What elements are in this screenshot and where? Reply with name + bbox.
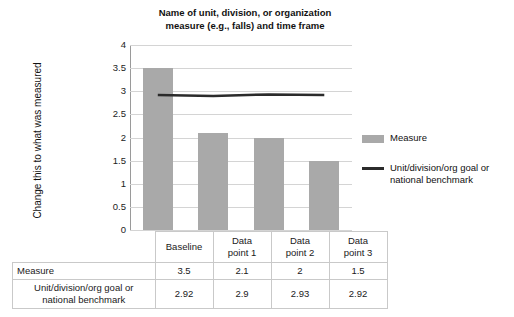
chart-legend: Measure Unit/division/org goal or nation… xyxy=(362,132,512,204)
y-axis-tick-label: 2 xyxy=(121,133,126,143)
table-column-header-baseline-line-1: Baseline xyxy=(166,241,202,252)
table-corner-cell xyxy=(13,232,156,263)
table-cell-measure-data-point-2: 2 xyxy=(271,263,329,280)
y-axis-tick-label: 0.5 xyxy=(113,202,126,212)
table-row-measure-label: Measure xyxy=(13,263,156,280)
table-header-row: Baseline Data point 1 Data point 2 Data … xyxy=(13,232,388,263)
legend-line-swatch-icon xyxy=(362,167,384,170)
y-axis-tick-label: 1.5 xyxy=(113,156,126,166)
data-table: Baseline Data point 1 Data point 2 Data … xyxy=(12,231,388,309)
table-row-measure: Measure 3.5 2.1 2 1.5 xyxy=(13,263,388,280)
legend-item-benchmark-label-line-1: Unit/division/org goal or xyxy=(390,162,489,173)
table-column-header-data-point-2-line-1: Data xyxy=(290,235,310,246)
table-column-header-data-point-3-line-1: Data xyxy=(348,235,368,246)
benchmark-polyline xyxy=(158,95,324,96)
y-axis-tick-label: 3.5 xyxy=(113,63,126,73)
table-cell-benchmark-data-point-3: 2.92 xyxy=(329,280,387,309)
benchmark-line-series xyxy=(130,45,352,230)
chart-title: Name of unit, division, or organization … xyxy=(120,6,370,32)
legend-item-measure: Measure xyxy=(362,132,512,144)
table-cell-benchmark-data-point-1: 2.9 xyxy=(213,280,271,309)
table-row-benchmark: Unit/division/org goal or national bench… xyxy=(13,280,388,309)
legend-item-benchmark: Unit/division/org goal or national bench… xyxy=(362,162,512,186)
table-column-header-data-point-2: Data point 2 xyxy=(271,232,329,263)
table-column-header-data-point-1-line-2: point 1 xyxy=(228,247,257,258)
table-column-header-data-point-3-line-2: point 3 xyxy=(344,247,373,258)
table-column-header-data-point-1: Data point 1 xyxy=(213,232,271,263)
y-axis-tick-label: 4 xyxy=(121,40,126,50)
table-row-benchmark-label-line-2: national benchmark xyxy=(42,294,125,305)
chart-title-line-2: measure (e.g., falls) and time frame xyxy=(120,19,370,32)
table-column-header-baseline: Baseline xyxy=(155,232,213,263)
legend-item-measure-label: Measure xyxy=(390,132,427,144)
table-column-header-data-point-3: Data point 3 xyxy=(329,232,387,263)
table-row-benchmark-label: Unit/division/org goal or national bench… xyxy=(13,280,156,309)
y-axis-tick-label: 1 xyxy=(121,179,126,189)
table-row-benchmark-label-line-1: Unit/division/org goal or xyxy=(34,282,133,293)
table-column-header-data-point-2-line-2: point 2 xyxy=(286,247,315,258)
y-axis-tick-label: 3 xyxy=(121,87,126,97)
chart-title-line-1: Name of unit, division, or organization xyxy=(120,6,370,19)
table-column-header-data-point-1-line-1: Data xyxy=(232,235,252,246)
legend-bar-swatch-icon xyxy=(362,135,384,143)
legend-item-benchmark-label: Unit/division/org goal or national bench… xyxy=(390,162,489,186)
legend-item-benchmark-label-line-2: national benchmark xyxy=(390,174,473,185)
table-cell-measure-data-point-1: 2.1 xyxy=(213,263,271,280)
y-axis-tick-label: 2.5 xyxy=(113,110,126,120)
table-cell-benchmark-baseline: 2.92 xyxy=(155,280,213,309)
table-cell-measure-baseline: 3.5 xyxy=(155,263,213,280)
y-axis-title: Change this to what was measured xyxy=(32,41,43,241)
table-cell-measure-data-point-3: 1.5 xyxy=(329,263,387,280)
table-cell-benchmark-data-point-2: 2.93 xyxy=(271,280,329,309)
plot-area: 00.511.522.533.54 xyxy=(130,45,352,230)
